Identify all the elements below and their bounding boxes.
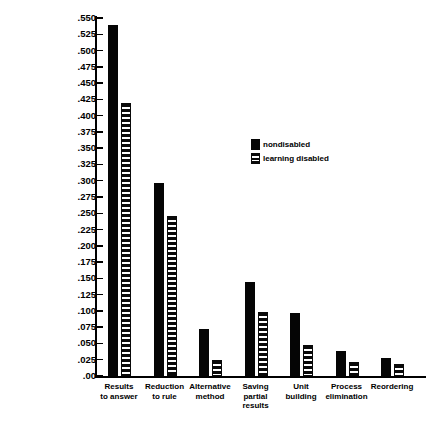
y-axis-tick-label: .550 [42,13,96,23]
bar-nondisabled [336,351,346,376]
y-axis-tick-label: .00 [42,371,96,381]
bar-nondisabled [290,313,300,376]
y-axis-tick-label: .425 [42,94,96,104]
bar-group [381,18,406,376]
y-axis-tick-label: .225 [42,225,96,235]
bar-learning-disabled [303,345,313,376]
x-axis-label-line: method [196,392,225,401]
y-axis-tick-label: .500 [42,46,96,56]
y-axis-ticks: .550.525.500.475.450.425.400.375.350.325… [0,0,96,422]
y-axis-tick-label: .100 [42,306,96,316]
y-axis-tick-label: .250 [42,208,96,218]
x-axis-label-line: Results [105,382,134,391]
bar-learning-disabled [258,312,268,376]
bar-learning-disabled [167,216,177,376]
bar-nondisabled [381,358,391,376]
x-axis-label: Reordering [358,382,426,392]
y-axis-tick-label: .125 [42,290,96,300]
y-axis-tick-label: .075 [42,322,96,332]
y-axis-tick-label: .475 [42,62,96,72]
bar-learning-disabled [394,364,404,376]
legend-swatch-learning-disabled [251,153,260,164]
bar-chart-figure: Mean Least Square K Score (information h… [0,0,443,422]
y-axis-tick-label: .450 [42,78,96,88]
y-axis-tick-label: .325 [42,159,96,169]
legend-swatch-nondisabled [251,139,260,150]
bar-learning-disabled [349,362,359,376]
y-axis-tick-label: .525 [42,29,96,39]
bar-group [245,18,270,376]
bar-learning-disabled [121,103,131,376]
bar-group [154,18,179,376]
bar-group [108,18,133,376]
bar-nondisabled [154,183,164,376]
y-axis-tick-label: .400 [42,111,96,121]
legend: nondisabledlearning disabled [251,139,329,167]
bar-group [290,18,315,376]
y-axis-tick-label: .350 [42,143,96,153]
x-axis-label-line: Reordering [371,382,414,391]
bar-nondisabled [199,329,209,376]
bar-nondisabled [108,25,118,376]
y-axis-tick-label: .300 [42,176,96,186]
y-axis-tick-label: .275 [42,192,96,202]
bar-group [199,18,224,376]
legend-label: learning disabled [263,154,329,163]
bar-learning-disabled [212,360,222,376]
bar-group [336,18,361,376]
y-axis-tick-label: .050 [42,338,96,348]
x-axis-label-line: elimination [325,392,367,401]
bar-nondisabled [245,282,255,376]
legend-label: nondisabled [263,140,310,149]
y-axis-tick-label: .025 [42,355,96,365]
y-axis-tick-label: .175 [42,257,96,267]
y-axis-tick-label: .150 [42,273,96,283]
x-axis-label-line: to rule [152,392,176,401]
x-axis-label-line: partial [243,392,267,401]
y-axis-tick-label: .200 [42,241,96,251]
plot-area [96,18,426,376]
y-axis-tick-label: .375 [42,127,96,137]
legend-item: learning disabled [251,153,329,164]
x-axis-label-line: Saving [242,382,268,391]
x-axis-line [95,376,426,378]
x-axis-label-line: results [242,401,268,410]
x-axis-label-line: Unit [293,382,309,391]
legend-item: nondisabled [251,139,329,150]
